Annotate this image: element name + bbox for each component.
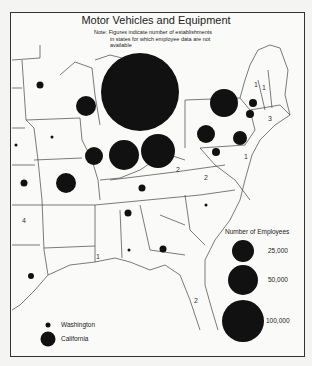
circle-texas [28,273,34,279]
circle-nebraska [15,144,18,147]
count-new-hampshire: 1 [262,84,266,91]
circle-maryland [212,148,220,156]
circle-iowa [51,136,54,139]
circle-kentucky [139,185,146,192]
circle-alabama [128,249,131,252]
legend-circle-25000 [232,240,254,262]
circle-new-york [210,89,238,117]
circle-tennessee [125,210,132,217]
key-circle-california [41,332,56,347]
key-label-california: California [61,335,88,342]
count-florida: 2 [194,297,198,304]
count-oklahoma: 4 [22,217,26,224]
legend-label-25000: 25,000 [268,247,288,254]
circle-pennsylvania [197,125,215,143]
circle-north-carolina [205,204,208,207]
circle-connecticut [246,110,254,118]
legend-circle-50000 [228,265,258,295]
count-mississippi: 1 [96,253,100,260]
circle-georgia [160,246,167,253]
key-circle-washington [46,323,51,328]
count-delaware: 1 [244,153,248,160]
circle-new-jersey [233,131,247,145]
key-label-washington: Washington [61,321,95,328]
circle-massachusetts [249,99,257,107]
circle-illinois [85,147,103,165]
legend-label-100000: 100,000 [266,317,290,324]
count-rhode-island: 3 [268,115,272,122]
circle-michigan [101,53,179,131]
circle-wisconsin [76,96,96,116]
circle-missouri [56,173,76,193]
count-west-virginia: 2 [176,166,180,173]
circle-ohio [141,134,175,168]
circle-kansas [21,180,28,187]
legend-label-50000: 50,000 [268,276,288,283]
legend-title: Number of Employees [225,228,289,235]
count-virginia: 2 [204,174,208,181]
employee-circles [0,0,312,366]
circle-indiana [109,140,139,170]
count-vermont: 1 [254,81,258,88]
circle-minnesota [37,82,44,89]
legend-circle-100000 [222,300,264,342]
